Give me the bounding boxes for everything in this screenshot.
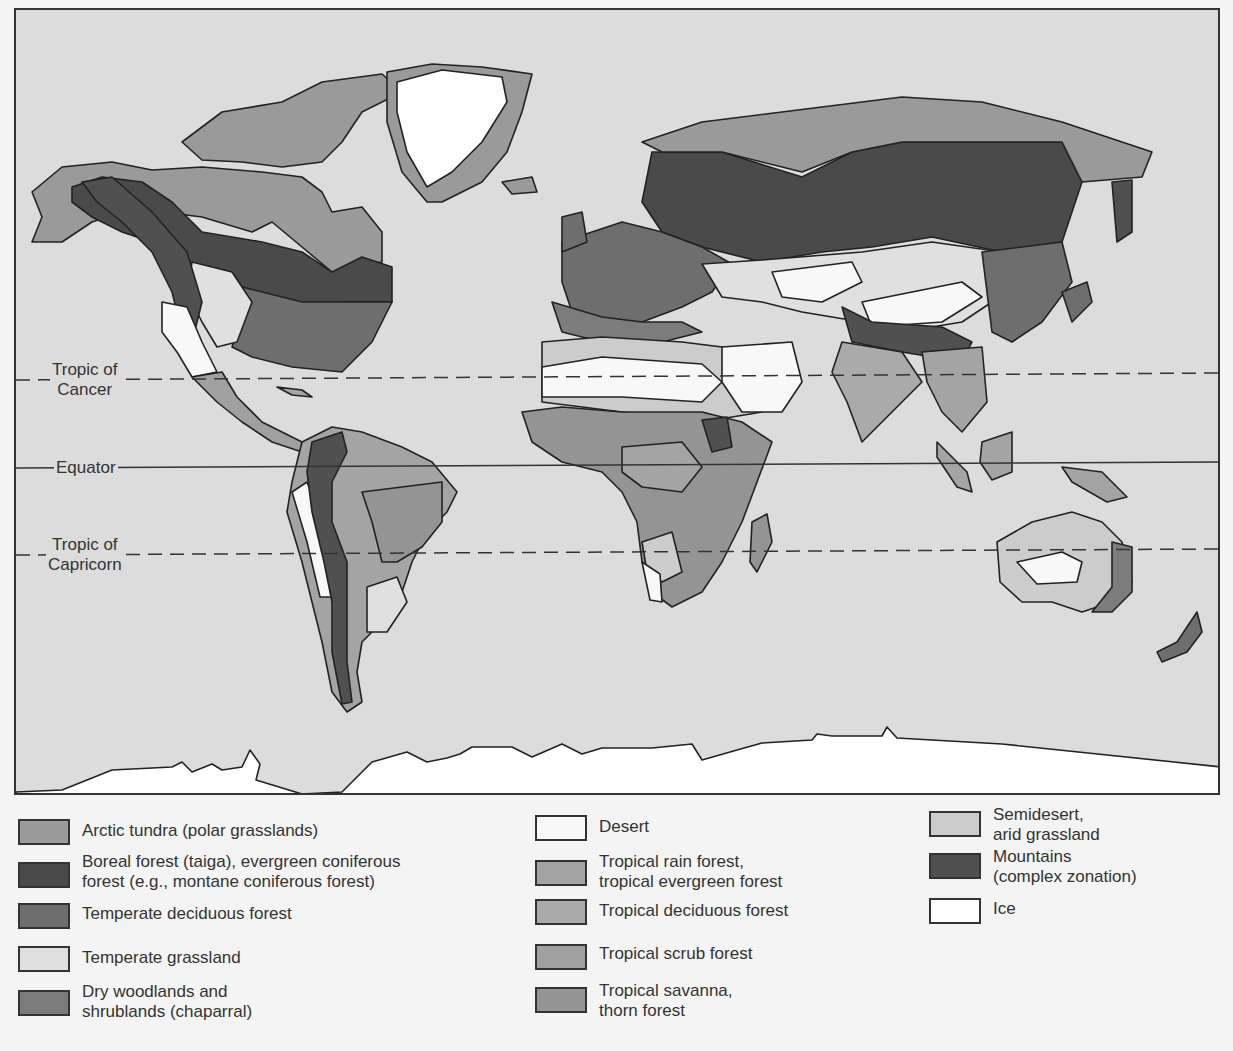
- kamchatka-mountains: [1112, 180, 1132, 242]
- borneo: [980, 432, 1012, 480]
- legend-item-temperate-grassland: Temperate grassland: [18, 946, 241, 972]
- swatch-dry-woodlands: [18, 990, 70, 1016]
- iceland: [502, 177, 537, 194]
- tropic-of-capricorn-label: Tropic of Capricorn: [46, 535, 124, 575]
- swatch-boreal-forest: [18, 862, 70, 888]
- swatch-tropical-scrub-forest: [535, 944, 587, 970]
- legend-item-tropical-deciduous-forest: Tropical deciduous forest: [535, 899, 788, 925]
- legend-item-semidesert: Semidesert, arid grassland: [929, 811, 1100, 845]
- swatch-mountains: [929, 853, 981, 879]
- swatch-tropical-deciduous-forest: [535, 899, 587, 925]
- antarctica-ice: [16, 727, 1220, 795]
- world-biome-map: Tropic of Cancer Equator Tropic of Capri…: [14, 8, 1220, 795]
- swatch-arctic-tundra: [18, 819, 70, 845]
- tropic-of-cancer-label: Tropic of Cancer: [50, 360, 120, 400]
- se-asia: [922, 347, 987, 432]
- legend-item-dry-woodlands: Dry woodlands and shrublands (chaparral): [18, 990, 252, 1022]
- arctic-islands: [182, 74, 402, 167]
- east-asia-deciduous: [982, 242, 1072, 342]
- new-guinea: [1062, 467, 1127, 502]
- new-zealand: [1157, 612, 1202, 662]
- swatch-semidesert: [929, 811, 981, 837]
- legend-item-mountains: Mountains (complex zonation): [929, 853, 1137, 887]
- legend-item-tropical-savanna: Tropical savanna, thorn forest: [535, 987, 733, 1021]
- legend-item-ice: Ice: [929, 898, 1016, 924]
- cuba: [277, 387, 312, 397]
- legend-item-temperate-deciduous-forest: Temperate deciduous forest: [18, 903, 292, 929]
- swatch-ice: [929, 898, 981, 924]
- legend-item-desert: Desert: [535, 815, 649, 841]
- swatch-desert: [535, 815, 587, 841]
- swatch-temperate-deciduous-forest: [18, 903, 70, 929]
- legend-item-arctic-tundra: Arctic tundra (polar grasslands): [18, 819, 318, 845]
- legend-item-boreal-forest: Boreal forest (taiga), evergreen conifer…: [18, 860, 400, 892]
- swatch-tropical-rain-forest: [535, 860, 587, 886]
- europe-boreal: [642, 142, 1082, 262]
- legend-item-tropical-rain-forest: Tropical rain forest, tropical evergreen…: [535, 858, 782, 892]
- madagascar: [750, 514, 772, 572]
- equator-label: Equator: [54, 458, 118, 478]
- map-canvas: [16, 10, 1220, 795]
- legend-item-tropical-scrub-forest: Tropical scrub forest: [535, 944, 752, 970]
- swatch-temperate-grassland: [18, 946, 70, 972]
- india-deciduous: [832, 342, 922, 442]
- sumatra: [937, 442, 972, 492]
- south-america-grassland: [367, 577, 407, 632]
- legend: Arctic tundra (polar grasslands) Boreal …: [0, 800, 1233, 1051]
- sahara-desert: [542, 357, 722, 402]
- swatch-tropical-savanna: [535, 987, 587, 1013]
